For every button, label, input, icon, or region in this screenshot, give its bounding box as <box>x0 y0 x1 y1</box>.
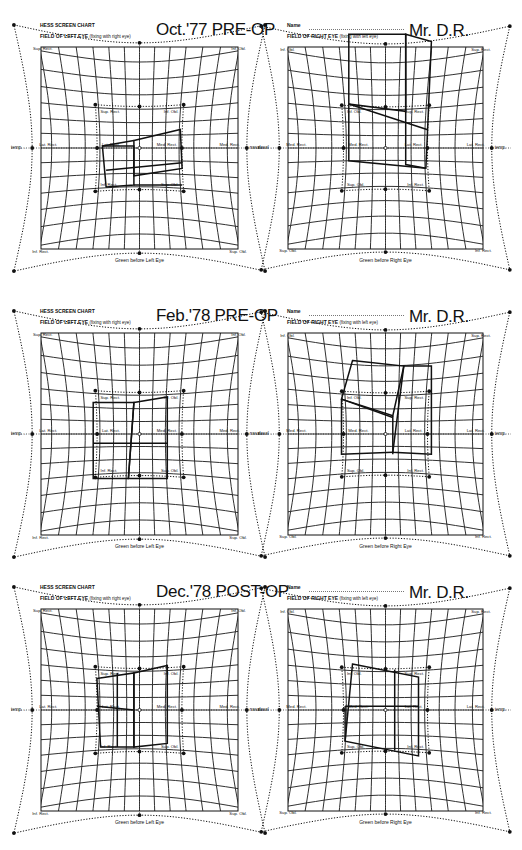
patient-plot-line <box>102 146 133 187</box>
hess-panel-left-eye-row-1: HESS SCREEN CHART FIELD OF LEFT EYE (fix… <box>0 10 261 293</box>
patient-plot-line <box>349 34 406 111</box>
panel-footer: Green before Right Eye <box>286 819 486 825</box>
hess-panel-left-eye-row-2: HESS SCREEN CHART FIELD OF LEFT EYE (fix… <box>0 296 261 579</box>
panel-footer: Green before Left Eye <box>40 257 240 263</box>
hess-panel-right-eye-row-1: Name FIELD OF RIGHT EYE (fixing with lef… <box>261 10 522 293</box>
panel-footer: Green before Left Eye <box>40 819 240 825</box>
patient-plot-line <box>106 163 182 170</box>
panel-footer: Green before Right Eye <box>286 543 486 549</box>
panel-footer: Green before Right Eye <box>286 257 486 263</box>
hess-panel-right-eye-row-3: Name FIELD OF RIGHT EYE (fixing with lef… <box>261 572 522 850</box>
hess-grid-chart: Inf. Obl.Sup. Rect.Med. Rect.Lat. Rect.S… <box>261 10 522 293</box>
hess-grid-chart: Sup. Rect.Inf. Obl.Lat. Rect.Med. Rect.I… <box>0 296 261 579</box>
patient-plot-line <box>134 130 182 176</box>
patient-plot-line <box>349 104 428 130</box>
hess-panel-left-eye-row-3: HESS SCREEN CHART FIELD OF LEFT EYE (fix… <box>0 572 261 850</box>
hess-grid-chart: Sup. Rect.Inf. Obl.Lat. Rect.Med. Rect.I… <box>0 10 261 293</box>
hess-grid-chart: Sup. Rect.Inf. Obl.Lat. Rect.Med. Rect.I… <box>0 572 261 850</box>
patient-plot-line <box>128 397 167 479</box>
hess-grid-chart: Inf. Obl.Sup. Rect.Med. Rect.Lat. Rect.S… <box>261 296 522 579</box>
hess-panel-right-eye-row-2: Name FIELD OF RIGHT EYE (fixing with lef… <box>261 296 522 579</box>
panel-footer: Green before Left Eye <box>40 543 240 549</box>
hess-grid-chart: Inf. Obl.Sup. Rect.Med. Rect.Lat. Rect.S… <box>261 572 522 850</box>
